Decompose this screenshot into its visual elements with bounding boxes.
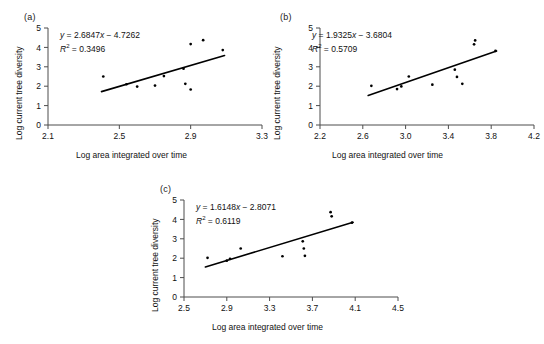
- y-tick-label: 0: [36, 120, 41, 130]
- y-tick-label: 3: [172, 234, 177, 244]
- data-point: [102, 75, 105, 78]
- data-point: [407, 75, 410, 78]
- x-tick-label: 2.1: [42, 131, 54, 141]
- x-tick-label: 4.1: [349, 303, 361, 313]
- panel-c: (c) y = 1.6148x − 2.8071 R2 = 0.6119 2.5…: [136, 172, 408, 344]
- data-point: [163, 75, 166, 78]
- data-point: [473, 43, 476, 46]
- panel-b-xlabel: Log area integrated over time: [332, 150, 443, 160]
- data-point: [400, 85, 403, 88]
- data-point: [351, 221, 354, 224]
- data-point: [182, 67, 185, 70]
- data-point: [229, 257, 232, 260]
- panel-b-plot: 2.22.63.03.43.84.2012345: [272, 0, 544, 172]
- x-tick-label: 3.7: [306, 303, 318, 313]
- panel-b: (b) y = 1.9325x − 3.6804 R2 = 0.5709 2.2…: [272, 0, 544, 172]
- panel-a-r2: R2 = 0.3496: [60, 41, 140, 55]
- data-point: [239, 247, 242, 250]
- y-tick-label: 4: [172, 215, 177, 225]
- panel-a-ylabel: Log current tree diversity: [14, 46, 24, 140]
- panel-b-r2: R2 = 0.5709: [312, 41, 392, 55]
- y-tick-label: 5: [36, 23, 41, 33]
- regression-line: [368, 51, 496, 96]
- panel-a-plot: 2.12.52.93.3012345: [0, 0, 272, 172]
- data-point: [136, 85, 139, 88]
- x-tick-label: 2.2: [314, 131, 326, 141]
- x-tick-label: 3.8: [485, 131, 497, 141]
- data-point: [370, 84, 373, 87]
- data-point: [302, 247, 305, 250]
- y-tick-label: 4: [36, 43, 41, 53]
- x-tick-label: 3.3: [264, 303, 276, 313]
- y-tick-label: 3: [36, 62, 41, 72]
- panel-b-annotation: y = 1.9325x − 3.6804 R2 = 0.5709: [312, 30, 392, 55]
- x-tick-label: 4.2: [528, 131, 540, 141]
- panel-a-annotation: y = 2.6847x − 4.7262 R2 = 0.3496: [60, 30, 140, 55]
- x-tick-label: 4.5: [392, 303, 404, 313]
- data-point: [329, 211, 332, 214]
- x-tick-label: 3.0: [400, 131, 412, 141]
- y-tick-label: 2: [172, 253, 177, 263]
- y-tick-label: 5: [172, 195, 177, 205]
- panel-c-equation: y = 1.6148x − 2.8071: [196, 202, 276, 213]
- data-point: [184, 83, 187, 86]
- panel-a-equation: y = 2.6847x − 4.7262: [60, 30, 140, 41]
- data-point: [189, 43, 192, 46]
- panel-b-ylabel: Log current tree diversity: [272, 46, 282, 140]
- regression-line: [102, 56, 225, 92]
- panel-b-equation: y = 1.9325x − 3.6804: [312, 30, 392, 41]
- panel-c-annotation: y = 1.6148x − 2.8071 R2 = 0.6119: [196, 202, 276, 227]
- x-tick-label: 3.4: [442, 131, 454, 141]
- data-point: [456, 76, 459, 79]
- panel-c-r2: R2 = 0.6119: [196, 213, 276, 227]
- panel-c-ylabel: Log current tree diversity: [150, 218, 160, 312]
- panel-a: (a) y = 2.6847x − 4.7262 R2 = 0.3496 2.1…: [0, 0, 272, 172]
- y-tick-label: 0: [172, 292, 177, 302]
- data-point: [301, 240, 304, 243]
- data-point: [304, 255, 307, 258]
- data-point: [281, 255, 284, 258]
- data-point: [225, 259, 228, 262]
- x-tick-label: 3.3: [256, 131, 268, 141]
- x-tick-label: 2.6: [357, 131, 369, 141]
- panel-c-label: (c): [160, 184, 171, 194]
- y-tick-label: 2: [36, 81, 41, 91]
- data-point: [206, 256, 209, 259]
- data-point: [330, 215, 333, 218]
- panel-a-label: (a): [24, 12, 36, 22]
- x-tick-label: 2.9: [185, 131, 197, 141]
- data-point: [125, 83, 128, 86]
- data-point: [202, 39, 205, 42]
- panel-c-xlabel: Log area integrated over time: [212, 322, 323, 332]
- data-point: [396, 88, 399, 91]
- data-point: [474, 39, 477, 42]
- y-tick-label: 3: [308, 62, 313, 72]
- panel-a-xlabel: Log area integrated over time: [76, 150, 187, 160]
- y-tick-label: 2: [308, 81, 313, 91]
- data-point: [189, 88, 192, 91]
- data-point: [494, 50, 497, 53]
- y-tick-label: 1: [36, 101, 41, 111]
- data-point: [154, 84, 157, 87]
- x-tick-label: 2.5: [113, 131, 125, 141]
- y-tick-label: 1: [172, 273, 177, 283]
- y-tick-label: 1: [308, 101, 313, 111]
- data-point: [221, 49, 224, 52]
- panel-b-label: (b): [280, 12, 292, 22]
- data-point: [431, 83, 434, 86]
- y-tick-label: 0: [308, 120, 313, 130]
- x-tick-label: 2.9: [221, 303, 233, 313]
- data-point: [461, 83, 464, 86]
- panel-c-plot: 2.52.93.33.74.14.5012345: [136, 172, 408, 344]
- data-point: [453, 68, 456, 71]
- x-tick-label: 2.5: [178, 303, 190, 313]
